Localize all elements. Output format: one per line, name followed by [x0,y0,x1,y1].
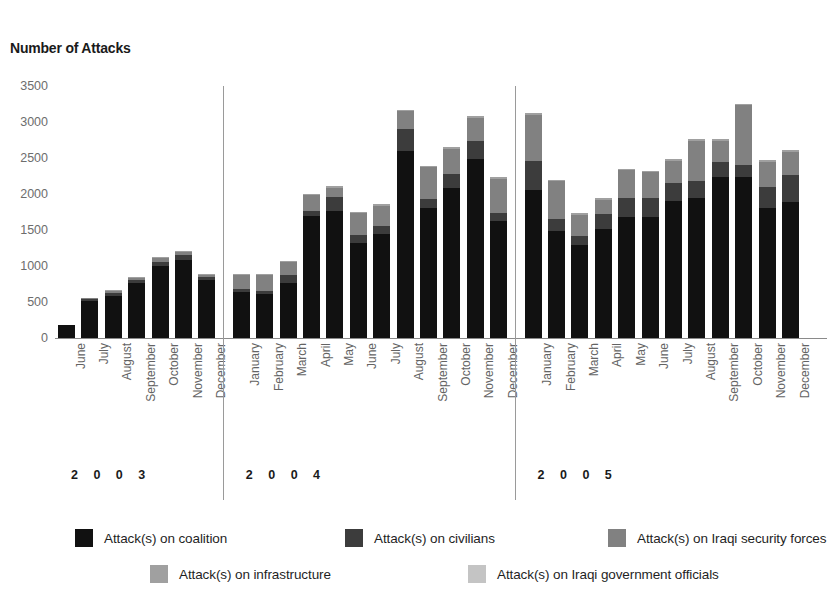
bar-column[interactable] [233,274,250,338]
legend-row-secondary: Attack(s) on infrastructureAttack(s) on … [0,560,836,588]
bar-column[interactable] [595,198,612,338]
x-axis-month-labels: JuneJulyAugustSeptemberOctoberNovemberDe… [55,341,827,446]
bar-segment [595,200,612,214]
x-axis-tick-label: June [656,343,673,369]
legend-label: Attack(s) on Iraqi government officials [497,567,719,582]
x-axis-tick-label: January [247,343,264,386]
bar-segment [665,201,682,338]
legend-swatch [150,565,168,583]
x-axis-tick-label: July [96,343,113,364]
bar-column[interactable] [350,212,367,338]
bar-segment [280,283,297,338]
bar-column[interactable] [525,113,542,338]
bar-column[interactable] [490,177,507,338]
x-axis-tick-label: December [213,343,230,398]
bar-segment [759,208,776,338]
bar-segment [350,235,367,243]
bar-segment [467,141,484,158]
bar-column[interactable] [665,159,682,338]
bar-column[interactable] [782,150,799,338]
legend-row-primary: Attack(s) on coalitionAttack(s) on civil… [0,524,836,552]
legend-item[interactable]: Attack(s) on Iraqi security forces [608,529,826,547]
year-label: 2 0 0 4 [246,468,326,482]
bar-column[interactable] [548,180,565,338]
page-title: Number of Attacks [10,40,131,56]
x-axis-tick-label: July [680,343,697,364]
bar-segment [152,266,169,338]
bar-segment [467,118,484,142]
bar-segment [712,162,729,177]
x-axis-tick-label: September [726,343,743,402]
bar-segment [525,190,542,338]
x-axis-tick-label: October [458,343,475,386]
bar-segment [198,280,215,338]
bar-segment [233,275,250,289]
bar-segment [642,217,659,338]
y-axis-tick: 0 [41,331,48,345]
bar-column[interactable] [759,160,776,338]
bar-column[interactable] [175,251,192,338]
x-axis-tick-label: September [435,343,452,402]
bar-segment [618,198,635,217]
bar-segment [256,294,273,338]
bar-segment [525,115,542,161]
y-axis-tick: 1500 [20,223,48,237]
year-label: 2 0 0 5 [538,468,618,482]
bar-segment [303,195,320,210]
bar-segment [467,159,484,338]
bar-column[interactable] [280,261,297,338]
bar-column[interactable] [735,104,752,338]
y-axis-tick: 1000 [20,259,48,273]
bar-column[interactable] [642,171,659,338]
bar-segment [420,167,437,199]
bar-column[interactable] [105,290,122,338]
legend-item[interactable]: Attack(s) on civilians [345,529,495,547]
bar-column[interactable] [81,298,98,338]
bar-column[interactable] [152,257,169,338]
legend-swatch [608,529,626,547]
bar-segment [443,188,460,338]
bar-segment [759,162,776,187]
bar-column[interactable] [420,166,437,338]
bar-segment [443,149,460,174]
plot-area [55,86,827,338]
bar-segment [326,211,343,338]
bar-column[interactable] [128,277,145,338]
x-axis-tick-label: November [773,343,790,398]
x-axis-tick-label: May [633,343,650,366]
bar-column[interactable] [397,110,414,338]
bar-column[interactable] [373,204,390,338]
bar-segment [128,283,145,338]
bar-column[interactable] [443,147,460,338]
x-axis-tick-label: April [318,343,335,367]
legend-item[interactable]: Attack(s) on infrastructure [150,565,331,583]
bar-column[interactable] [58,325,75,338]
bar-segment [665,183,682,201]
bar-column[interactable] [303,194,320,338]
bar-segment [280,262,297,275]
legend-item[interactable]: Attack(s) on coalition [75,529,227,547]
legend-item[interactable]: Attack(s) on Iraqi government officials [468,565,719,583]
x-axis-tick-label: April [609,343,626,367]
bar-segment [571,245,588,338]
bar-segment [571,236,588,245]
chart-page: Number of Attacks 3500300025002000150010… [0,0,836,601]
bar-column[interactable] [256,274,273,338]
bar-column[interactable] [712,139,729,338]
year-divider [223,86,224,500]
bar-column[interactable] [571,213,588,338]
bar-segment [420,199,437,208]
bar-column[interactable] [618,169,635,338]
legend-label: Attack(s) on civilians [374,531,495,546]
bar-column[interactable] [688,139,705,338]
bar-segment [256,275,273,291]
bar-column[interactable] [198,274,215,338]
y-axis-tick: 500 [27,295,48,309]
bar-column[interactable] [467,116,484,338]
bar-segment [326,188,343,197]
x-axis-tick-label: March [294,343,311,376]
bar-segment [688,198,705,338]
bar-segment [618,217,635,338]
bar-column[interactable] [326,186,343,338]
x-axis-tick-label: July [388,343,405,364]
